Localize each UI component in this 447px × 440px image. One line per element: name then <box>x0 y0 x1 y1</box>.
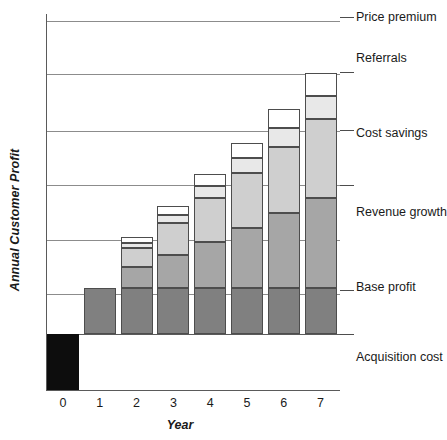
y-axis-title-text: Annual Customer Profit <box>8 149 22 291</box>
leader-tick-4 <box>340 290 354 291</box>
series-label-acquisition-cost: Acquisition cost <box>356 350 443 364</box>
series-label-price-premium: Price premium <box>356 10 437 24</box>
segment-revenue-growth-year-2[interactable] <box>121 267 153 288</box>
x-tick-label-2: 2 <box>133 396 140 410</box>
segment-referrals-year-6[interactable] <box>268 128 300 146</box>
segment-cost-savings-year-6[interactable] <box>268 147 300 214</box>
segment-base-profit-year-3[interactable] <box>157 288 189 334</box>
segment-price-premium-year-7[interactable] <box>305 73 337 96</box>
leader-tick-5 <box>340 334 354 335</box>
segment-base-profit-year-1[interactable] <box>84 288 116 334</box>
leader-tick-1 <box>340 72 354 73</box>
segment-cost-savings-year-5[interactable] <box>231 173 263 228</box>
x-tick-label-7: 7 <box>317 396 324 410</box>
bar-year-6[interactable] <box>268 0 300 440</box>
series-label-base-profit: Base profit <box>356 280 416 294</box>
segment-acquisition-cost-year-0[interactable] <box>47 334 79 390</box>
segment-revenue-growth-year-3[interactable] <box>157 255 189 288</box>
segment-revenue-growth-year-5[interactable] <box>231 228 263 288</box>
bar-year-3[interactable] <box>157 0 189 440</box>
leader-tick-2 <box>340 130 354 131</box>
segment-base-profit-year-5[interactable] <box>231 288 263 334</box>
segment-price-premium-year-6[interactable] <box>268 109 300 128</box>
segment-base-profit-year-6[interactable] <box>268 288 300 334</box>
segment-revenue-growth-year-4[interactable] <box>194 242 226 288</box>
segment-cost-savings-year-3[interactable] <box>157 223 189 255</box>
x-tick-label-6: 6 <box>280 396 287 410</box>
segment-referrals-year-4[interactable] <box>194 186 226 198</box>
x-tick-label-3: 3 <box>170 396 177 410</box>
segment-referrals-year-7[interactable] <box>305 96 337 119</box>
segment-base-profit-year-7[interactable] <box>305 288 337 334</box>
segment-referrals-year-5[interactable] <box>231 158 263 173</box>
segment-cost-savings-year-7[interactable] <box>305 119 337 198</box>
bar-year-5[interactable] <box>231 0 263 440</box>
x-tick-label-4: 4 <box>207 396 214 410</box>
y-axis-title: Annual Customer Profit <box>4 0 26 440</box>
bar-year-4[interactable] <box>194 0 226 440</box>
leader-tick-3 <box>340 185 354 186</box>
segment-referrals-year-3[interactable] <box>157 215 189 223</box>
segment-price-premium-year-4[interactable] <box>194 174 226 186</box>
segment-price-premium-year-2[interactable] <box>121 237 153 243</box>
segment-cost-savings-year-4[interactable] <box>194 198 226 242</box>
x-tick-label-0: 0 <box>60 396 67 410</box>
bar-year-1[interactable] <box>84 0 116 440</box>
bar-year-2[interactable] <box>121 0 153 440</box>
bar-year-0[interactable] <box>47 0 79 440</box>
series-label-cost-savings: Cost savings <box>356 126 428 140</box>
leader-tick-0 <box>340 17 354 18</box>
segment-cost-savings-year-2[interactable] <box>121 248 153 268</box>
segment-price-premium-year-5[interactable] <box>231 143 263 158</box>
x-tick-label-5: 5 <box>244 396 251 410</box>
segment-price-premium-year-3[interactable] <box>157 206 189 215</box>
series-label-referrals: Referrals <box>356 51 407 65</box>
series-label-revenue-growth: Revenue growth <box>356 205 447 219</box>
segment-referrals-year-2[interactable] <box>121 243 153 248</box>
segment-revenue-growth-year-7[interactable] <box>305 198 337 288</box>
bar-year-7[interactable] <box>305 0 337 440</box>
segment-revenue-growth-year-6[interactable] <box>268 213 300 288</box>
segment-base-profit-year-4[interactable] <box>194 288 226 334</box>
segment-base-profit-year-2[interactable] <box>121 288 153 334</box>
x-tick-label-1: 1 <box>96 396 103 410</box>
x-axis-title: Year <box>0 418 360 432</box>
